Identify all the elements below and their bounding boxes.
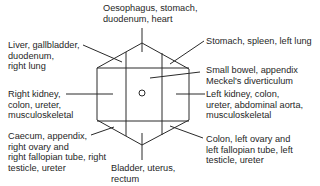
umbilicus-marker (139, 90, 145, 96)
leader-upper-left (83, 45, 122, 62)
label-left: Right kidney, colon, ureter, musculoskel… (8, 89, 73, 121)
label-bottom: Bladder, uterus, rectum (111, 163, 175, 184)
leader-upper-right (170, 41, 204, 64)
label-lower-right: Colon, left ovary and left fallopian tub… (206, 134, 293, 166)
label-center: Small bowel, appendix Meckel's diverticu… (206, 65, 298, 86)
label-right: Left kidney, colon, ureter, abdominal ao… (206, 89, 303, 121)
label-upper-left: Liver, gallbladder, duodenum, right lung (8, 40, 80, 72)
label-top: Oesophagus, stomach, duodenum, heart (103, 3, 197, 24)
label-lower-left: Caecum, appendix, right ovary and right … (8, 131, 106, 173)
leader-center (150, 72, 200, 78)
leader-lower-right (170, 126, 203, 138)
label-upper-right: Stomach, spleen, left lung (206, 36, 312, 47)
